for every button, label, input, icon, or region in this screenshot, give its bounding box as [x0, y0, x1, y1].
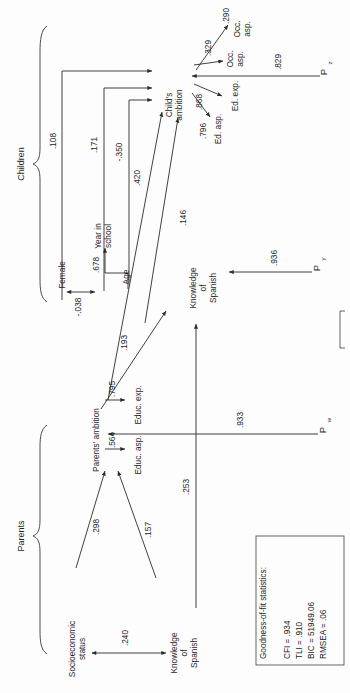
- coef-253: .253: [181, 479, 191, 496]
- coef-933: .933: [235, 412, 245, 429]
- node-knowledge-spanish-parent-line1: Knowledge: [169, 632, 179, 673]
- path-childambition-to-occasp: [194, 61, 223, 65]
- coef-171: .171: [89, 137, 99, 154]
- group-brace-parents: [33, 425, 47, 654]
- node-occ-exp-line1: Occ.: [232, 20, 242, 37]
- node-p-w: P: [317, 427, 328, 433]
- path-knowledgespanish-to-childambition: [145, 118, 178, 323]
- node-knowledge-spanish-child-line1: Knowledge: [188, 267, 198, 308]
- coef-420: .420: [132, 170, 142, 187]
- node-p-y-subscript: y: [320, 258, 326, 261]
- coef-678: .678: [91, 257, 101, 274]
- diagram-canvas: Children Parents .108 .171 -.350 -.038: [0, 0, 350, 693]
- node-year-in-school-line1: Year in: [93, 223, 103, 249]
- node-year-in-school-line2: school: [103, 224, 113, 248]
- node-p-w-subscript: w: [326, 417, 332, 423]
- node-occ-asp-line1: Occ.: [225, 50, 235, 67]
- node-socioeconomic-status-line2: status: [77, 638, 87, 660]
- node-occ-exp-line2: asp.: [242, 21, 252, 37]
- coef-neg038: -.038: [73, 297, 83, 316]
- coef-108: .108: [48, 133, 58, 150]
- node-socioeconomic-status-line1: Socioeconomic: [67, 621, 77, 677]
- coef-298: .298: [91, 519, 101, 536]
- coef-329: .329: [203, 40, 213, 57]
- coef-193: .193: [119, 335, 129, 352]
- node-p-y: P: [311, 265, 322, 271]
- coef-829: .829: [273, 54, 283, 71]
- node-knowledge-spanish-child-line3: Spanish: [208, 273, 218, 303]
- fit-stat-tli: TLI = .910: [295, 621, 304, 659]
- group-label-parents: Parents: [16, 520, 26, 552]
- node-occ-asp-line2: asp.: [235, 51, 245, 67]
- node-knowledge-spanish-parent-line3: Spanish: [189, 638, 199, 668]
- edge-bracket-fragment: [340, 311, 345, 348]
- node-child-ambition-line2: ambition: [174, 89, 184, 121]
- group-brace-children: [33, 26, 47, 302]
- fit-box-title: Goodness-of-fit statistics:: [259, 567, 268, 659]
- coef-neg350: -.350: [114, 142, 124, 161]
- node-p-z-subscript: z: [327, 62, 333, 65]
- fit-stat-bic: BIC = 51949.06: [307, 601, 316, 659]
- node-ed-exp: Ed. exp.: [230, 81, 240, 111]
- path-age-to-child-ambition: [129, 100, 152, 283]
- node-female: Female: [57, 261, 67, 289]
- node-child-ambition-line1: Child's: [164, 93, 174, 118]
- node-educ-exp: Educ. exp.: [133, 385, 143, 424]
- coef-146: .146: [178, 210, 188, 227]
- node-p-z: P: [318, 69, 329, 75]
- coef-157: .157: [143, 522, 153, 539]
- path-diagram-figure: Children Parents .108 .171 -.350 -.038: [0, 0, 350, 693]
- fit-stat-cfi: CFI = .934: [283, 620, 292, 659]
- node-ed-asp: Ed. asp.: [213, 114, 223, 144]
- coef-796: .796: [198, 123, 208, 140]
- node-knowledge-spanish-parent-line2: of: [179, 649, 189, 657]
- coef-240: .240: [120, 630, 130, 647]
- node-knowledge-spanish-child-line2: of: [198, 284, 208, 292]
- coef-936: .936: [269, 250, 279, 267]
- node-parents-ambition: Parents' ambition: [91, 408, 101, 472]
- node-age: Age: [121, 269, 131, 284]
- coef-290: .290: [221, 8, 231, 25]
- path-yearinschool-to-child-ambition: [104, 88, 152, 291]
- coef-795: .795: [107, 381, 117, 398]
- node-educ-asp: Educ. asp.: [133, 435, 143, 474]
- fit-stat-rmsea: RMSEA = .06: [319, 609, 328, 659]
- group-label-children: Children: [16, 147, 26, 181]
